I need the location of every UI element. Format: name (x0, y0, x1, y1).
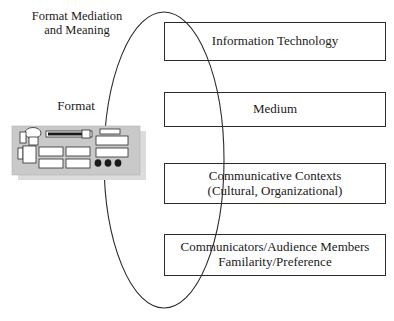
card-slot-1-icon (39, 147, 63, 156)
side-panel-icon (18, 148, 23, 159)
tape-end-icon (82, 130, 90, 138)
card-slot-3-icon (39, 159, 63, 168)
drive-bay-lower-icon (96, 148, 128, 157)
drive-bay-upper-icon (96, 136, 128, 145)
indicator-dot-1-icon (95, 159, 102, 167)
card-slot-4-icon (66, 159, 90, 168)
concept-box-information-technology: Information Technology (164, 22, 386, 61)
tape-strip-fill (48, 133, 82, 136)
diagram-canvas: Format Mediation and Meaning Format (0, 0, 394, 321)
format-mediation-label: Format Mediation and Meaning (18, 9, 136, 37)
concept-box-communicators-audience: Communicators/Audience Members Familarit… (164, 234, 386, 276)
drive-slot-top-icon (100, 129, 120, 134)
format-label: Format (38, 99, 114, 114)
concept-box-communicative-contexts: Communicative Contexts (Cultural, Organi… (164, 163, 386, 204)
small-tower-icon (20, 132, 26, 143)
monitor-icon (23, 146, 36, 163)
disc-stand-icon (29, 137, 38, 145)
card-slot-2-icon (66, 147, 90, 156)
concept-box-medium: Medium (164, 92, 386, 127)
format-device-illustration (8, 122, 148, 180)
indicator-dot-3-icon (115, 159, 122, 167)
indicator-dot-2-icon (105, 159, 112, 167)
